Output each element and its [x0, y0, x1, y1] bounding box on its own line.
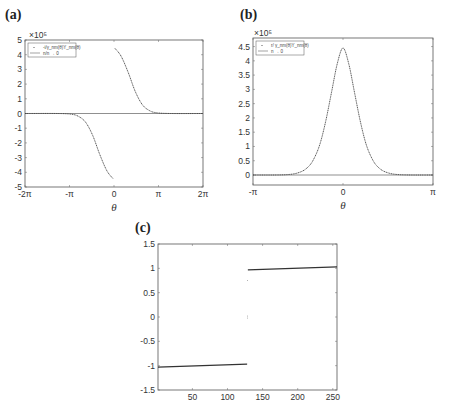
- y-tick-label: 4: [17, 50, 22, 60]
- y-tick-label: 0.5: [238, 156, 250, 166]
- plot-b-legend: r/ γ_nm(θ)Y_nm(θ) n → 0: [256, 41, 309, 55]
- x-tick-label: π: [430, 187, 436, 197]
- plot-b-legend-1: r/ γ_nm(θ)Y_nm(θ): [271, 43, 309, 48]
- y-tick-label: 1: [245, 141, 250, 151]
- x-tick-label: 200: [291, 392, 305, 402]
- plot-a-legend-2: n/n → 0: [43, 51, 59, 56]
- y-tick-label: 1: [17, 94, 22, 104]
- y-tick-label: 2.5: [238, 99, 250, 109]
- y-tick-label: 2: [245, 113, 250, 123]
- x-tick-label: π: [156, 189, 162, 199]
- plot-a-x-ticks: -2π-π0π2π: [18, 40, 208, 199]
- y-tick-label: 0: [17, 109, 22, 119]
- plot-b-y-ticks: 4.543.532.521.510.50: [238, 42, 433, 180]
- plot-c-frame: [158, 244, 337, 390]
- plot-b-series: [253, 48, 433, 175]
- x-tick-label: -π: [249, 187, 258, 197]
- plot-a: 543210-1-2-3-4-5 -2π-π0π2π ×10⁵ θ -i/γ_n…: [14, 30, 208, 213]
- plot-c-y-ticks: 1.510.50-0.5-1-1.5: [140, 239, 337, 395]
- x-tick-label: 150: [255, 392, 269, 402]
- y-tick-label: -1.5: [140, 385, 155, 395]
- y-tick-label: -1: [14, 123, 22, 133]
- plot-b-legend-2: n → 0: [271, 49, 284, 54]
- plot-b-x-ticks: -π0π: [249, 38, 436, 197]
- plot-a-xlabel: θ: [111, 201, 117, 213]
- plot-c: 1.510.50-0.5-1-1.5 50100150200250: [140, 239, 340, 402]
- y-tick-label: -3: [14, 153, 22, 163]
- y-tick-label: 3: [245, 84, 250, 94]
- y-tick-label: -0.5: [140, 336, 155, 346]
- plot-a-legend: -i/γ_nm(θ)Y_nm(θ) n/n → 0: [28, 43, 81, 57]
- plot-c-series: [158, 267, 337, 367]
- plot-b-xlabel: θ: [340, 199, 346, 211]
- y-tick-label: 0.5: [143, 288, 155, 298]
- figure-canvas: 543210-1-2-3-4-5 -2π-π0π2π ×10⁵ θ -i/γ_n…: [0, 0, 450, 417]
- x-tick-label: 100: [220, 392, 234, 402]
- x-tick-label: 0: [112, 189, 117, 199]
- y-tick-label: -1: [147, 361, 155, 371]
- x-tick-label: 250: [326, 392, 340, 402]
- x-tick-label: 0: [341, 187, 346, 197]
- plot-b-frame: [253, 38, 433, 185]
- x-tick-label: -2π: [18, 189, 32, 199]
- y-tick-label: -2: [14, 138, 22, 148]
- plot-a-exponent: ×10⁵: [29, 30, 47, 40]
- y-tick-label: 0: [245, 170, 250, 180]
- plot-a-legend-1: -i/γ_nm(θ)Y_nm(θ): [43, 45, 81, 50]
- plot-a-series: [25, 48, 203, 179]
- y-tick-label: 1.5: [238, 127, 250, 137]
- y-tick-label: 1.5: [143, 239, 155, 249]
- y-tick-label: 4: [245, 56, 250, 66]
- y-tick-label: 5: [17, 35, 22, 45]
- y-tick-label: 4.5: [238, 42, 250, 52]
- y-tick-label: 2: [17, 79, 22, 89]
- y-tick-label: -4: [14, 167, 22, 177]
- y-tick-label: 0: [150, 312, 155, 322]
- y-tick-label: 3.5: [238, 70, 250, 80]
- plot-b-exponent: ×10⁵: [254, 28, 272, 38]
- plot-b: 4.543.532.521.510.50 -π0π ×10⁵ θ r/ γ_nm…: [238, 28, 436, 211]
- y-tick-label: 3: [17, 64, 22, 74]
- y-tick-label: 1: [150, 263, 155, 273]
- x-tick-label: 2π: [198, 189, 209, 199]
- x-tick-label: -π: [65, 189, 74, 199]
- x-tick-label: 50: [188, 392, 198, 402]
